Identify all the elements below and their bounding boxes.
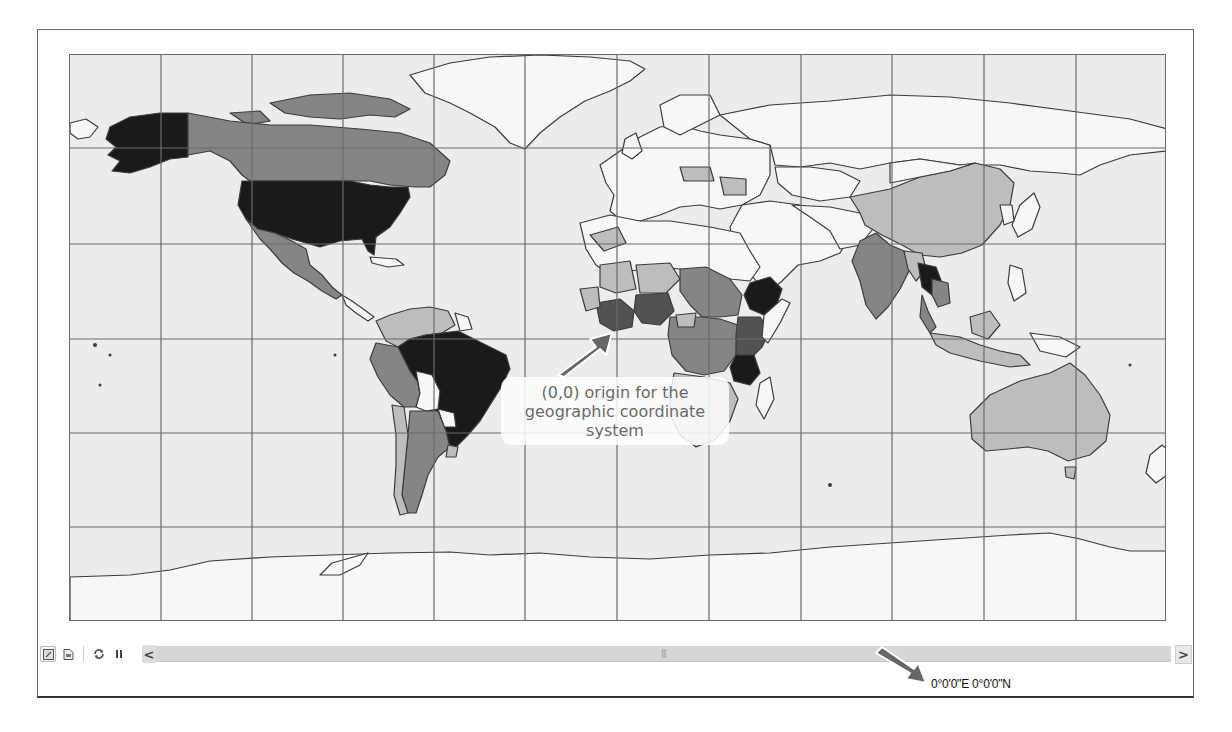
- callout-line-2: geographic coordinate: [501, 402, 729, 421]
- layout-view-button[interactable]: [60, 646, 76, 662]
- pause-icon: [114, 649, 124, 659]
- callout-line-1: (0,0) origin for the: [501, 383, 729, 402]
- origin-callout: (0,0) origin for the geographic coordina…: [501, 377, 729, 445]
- tanzania: [730, 355, 760, 385]
- antarctica: [70, 533, 1166, 621]
- alaska: [106, 113, 188, 173]
- india: [852, 233, 910, 319]
- horizontal-scrollbar[interactable]: |||: [156, 646, 1171, 662]
- scroll-left-button[interactable]: <: [142, 645, 156, 663]
- pause-button[interactable]: [111, 646, 127, 662]
- madagascar: [756, 377, 774, 419]
- refresh-icon: [93, 648, 105, 660]
- scandinavia: [660, 95, 720, 135]
- data-view-button[interactable]: [40, 646, 56, 662]
- japan: [1012, 193, 1040, 237]
- callout-line-3: system: [501, 421, 729, 440]
- canada: [188, 113, 450, 187]
- map-view-icon: [43, 649, 54, 660]
- refresh-button[interactable]: [91, 646, 107, 662]
- toolbar-separator: [83, 646, 84, 662]
- scroll-right-button[interactable]: >: [1175, 645, 1192, 664]
- argentina: [402, 411, 450, 513]
- australia: [970, 363, 1110, 461]
- scroll-grip-icon[interactable]: |||: [661, 649, 666, 658]
- nigeria: [634, 293, 674, 325]
- page-layout-icon: [63, 649, 74, 660]
- map-toolbar: [40, 643, 127, 665]
- greenland: [410, 55, 645, 149]
- status-coordinates: 0°0'0"E 0°0'0"N: [931, 677, 1011, 691]
- origin-arrow-icon: [548, 325, 620, 380]
- kazakhstan: [775, 167, 860, 201]
- coordinates-arrow-icon: [872, 643, 932, 688]
